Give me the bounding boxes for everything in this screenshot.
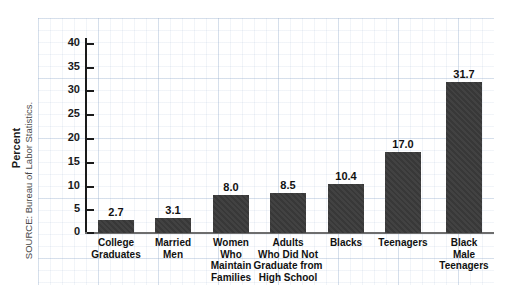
y-tick-mark-20 bbox=[87, 138, 94, 140]
bar-label-adults-no-high-school-diploma: Adults Who Did Not Graduate from High Sc… bbox=[252, 237, 324, 283]
bar-label-line-3: Graduate from bbox=[252, 260, 324, 272]
source-note: SOURCE: Bureau of Labor Statistics. bbox=[23, 91, 34, 271]
y-tick-mark-5 bbox=[87, 209, 94, 211]
bar-label-married-men: Married Men bbox=[143, 237, 203, 260]
bar-value-women-who-maintain-families: 8.0 bbox=[211, 181, 251, 193]
bar-label-college-graduates: College Graduates bbox=[86, 237, 146, 260]
y-tick-mark-15 bbox=[87, 162, 94, 164]
bar-label-line-1: Teenagers bbox=[371, 237, 435, 249]
bar-value-college-graduates: 2.7 bbox=[96, 206, 136, 218]
y-tick-label-10: 10 bbox=[52, 180, 80, 191]
bar-value-blacks: 10.4 bbox=[326, 170, 366, 182]
y-tick-label-5-wrap: 5 bbox=[52, 203, 80, 214]
bar-black-male-teenagers bbox=[446, 82, 482, 233]
bar-adults-no-high-school-diploma bbox=[270, 193, 306, 233]
bar-women-who-maintain-families bbox=[213, 195, 249, 233]
y-tick-label-5: 5 bbox=[52, 203, 80, 214]
y-tick-mark-25 bbox=[87, 114, 94, 116]
bar-chart-figure: 40 35 30 25 20 15 10 5 0 bbox=[0, 0, 518, 297]
bar-married-men bbox=[155, 218, 191, 233]
y-tick-mark-35 bbox=[87, 67, 94, 69]
y-tick-label-10-wrap: 10 bbox=[52, 180, 80, 191]
y-tick-label-40-wrap: 40 bbox=[52, 37, 80, 48]
bar-label-line-2: Male bbox=[432, 249, 496, 261]
y-tick-label-20-wrap: 20 bbox=[52, 132, 80, 143]
plot-area: 40 35 30 25 20 15 10 5 0 bbox=[0, 0, 518, 297]
y-tick-label-15: 15 bbox=[52, 156, 80, 167]
y-tick-mark-30 bbox=[87, 90, 94, 92]
bar-label-blacks: Blacks bbox=[316, 237, 376, 249]
bar-label-line-1: Adults bbox=[252, 237, 324, 249]
y-tick-label-20: 20 bbox=[52, 132, 80, 143]
bar-label-line-3: Teenagers bbox=[432, 260, 496, 272]
bar-teenagers bbox=[385, 152, 421, 233]
bar-label-line-2: Men bbox=[143, 249, 203, 261]
y-tick-label-25-wrap: 25 bbox=[52, 108, 80, 119]
bar-label-black-male-teenagers: Black Male Teenagers bbox=[432, 237, 496, 272]
bar-blacks bbox=[328, 184, 364, 233]
y-tick-label-15-wrap: 15 bbox=[52, 156, 80, 167]
y-tick-mark-0 bbox=[87, 232, 94, 234]
y-tick-label-25: 25 bbox=[52, 108, 80, 119]
bar-value-married-men: 3.1 bbox=[153, 204, 193, 216]
bar-college-graduates bbox=[98, 220, 134, 233]
bar-label-line-4: High School bbox=[252, 272, 324, 284]
bar-value-adults-no-high-school-diploma: 8.5 bbox=[268, 179, 308, 191]
bar-label-line-1: Blacks bbox=[316, 237, 376, 249]
y-tick-mark-10 bbox=[87, 186, 94, 188]
y-axis-title: Percent bbox=[10, 113, 22, 183]
bar-label-line-1: Black bbox=[432, 237, 496, 249]
y-tick-label-35-wrap: 35 bbox=[52, 61, 80, 72]
bar-label-line-1: College bbox=[86, 237, 146, 249]
y-tick-label-30: 30 bbox=[52, 84, 80, 95]
y-tick-mark-40 bbox=[87, 43, 94, 45]
y-tick-label-0: 0 bbox=[52, 226, 80, 237]
bar-value-teenagers: 17.0 bbox=[383, 138, 423, 150]
bar-label-teenagers: Teenagers bbox=[371, 237, 435, 249]
y-tick-label-30-wrap: 30 bbox=[52, 84, 80, 95]
y-tick-label-35: 35 bbox=[52, 61, 80, 72]
bar-label-line-1: Married bbox=[143, 237, 203, 249]
y-tick-label-0-wrap: 0 bbox=[52, 226, 80, 237]
y-tick-label-40: 40 bbox=[52, 37, 80, 48]
bar-label-line-2: Who Did Not bbox=[252, 249, 324, 261]
bar-label-line-2: Graduates bbox=[86, 249, 146, 261]
bar-value-black-male-teenagers: 31.7 bbox=[444, 68, 484, 80]
